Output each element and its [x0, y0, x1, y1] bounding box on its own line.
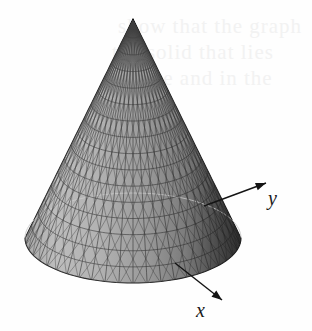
axis-label-x: x [196, 300, 205, 320]
cone-surface-plot [0, 0, 312, 331]
axis-label-y: y [268, 188, 277, 208]
cone-mesh-lines [25, 19, 241, 283]
x-axis-arrowhead [212, 291, 222, 300]
y-axis-arrowhead [255, 183, 266, 190]
figure-root: show that the graph the solid that lies … [0, 0, 312, 331]
cone-shading-overlay [25, 19, 241, 283]
